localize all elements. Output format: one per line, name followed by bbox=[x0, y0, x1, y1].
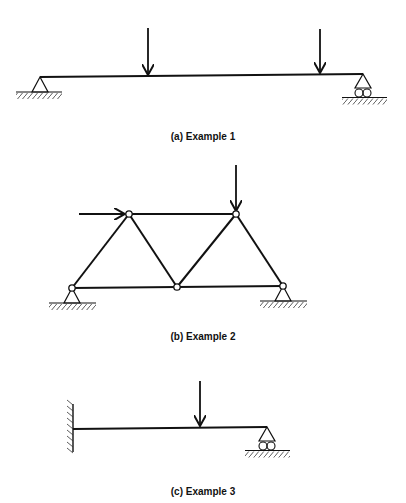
caption-example-3: (c) Example 3 bbox=[0, 486, 406, 497]
example-1-diagram bbox=[16, 28, 387, 105]
structures-figure bbox=[0, 0, 406, 503]
beam-3 bbox=[73, 427, 267, 429]
pin-support-icon bbox=[16, 77, 62, 99]
fixed-wall-icon bbox=[67, 400, 73, 453]
caption-example-2: (b) Example 2 bbox=[0, 331, 406, 342]
caption-example-1: (a) Example 1 bbox=[0, 131, 406, 142]
roller-support-icon bbox=[342, 74, 387, 105]
beam-1 bbox=[40, 74, 363, 77]
roller-support-icon bbox=[245, 427, 290, 458]
example-3-diagram bbox=[67, 381, 290, 458]
truss-members bbox=[72, 214, 283, 288]
example-2-diagram bbox=[49, 165, 307, 310]
